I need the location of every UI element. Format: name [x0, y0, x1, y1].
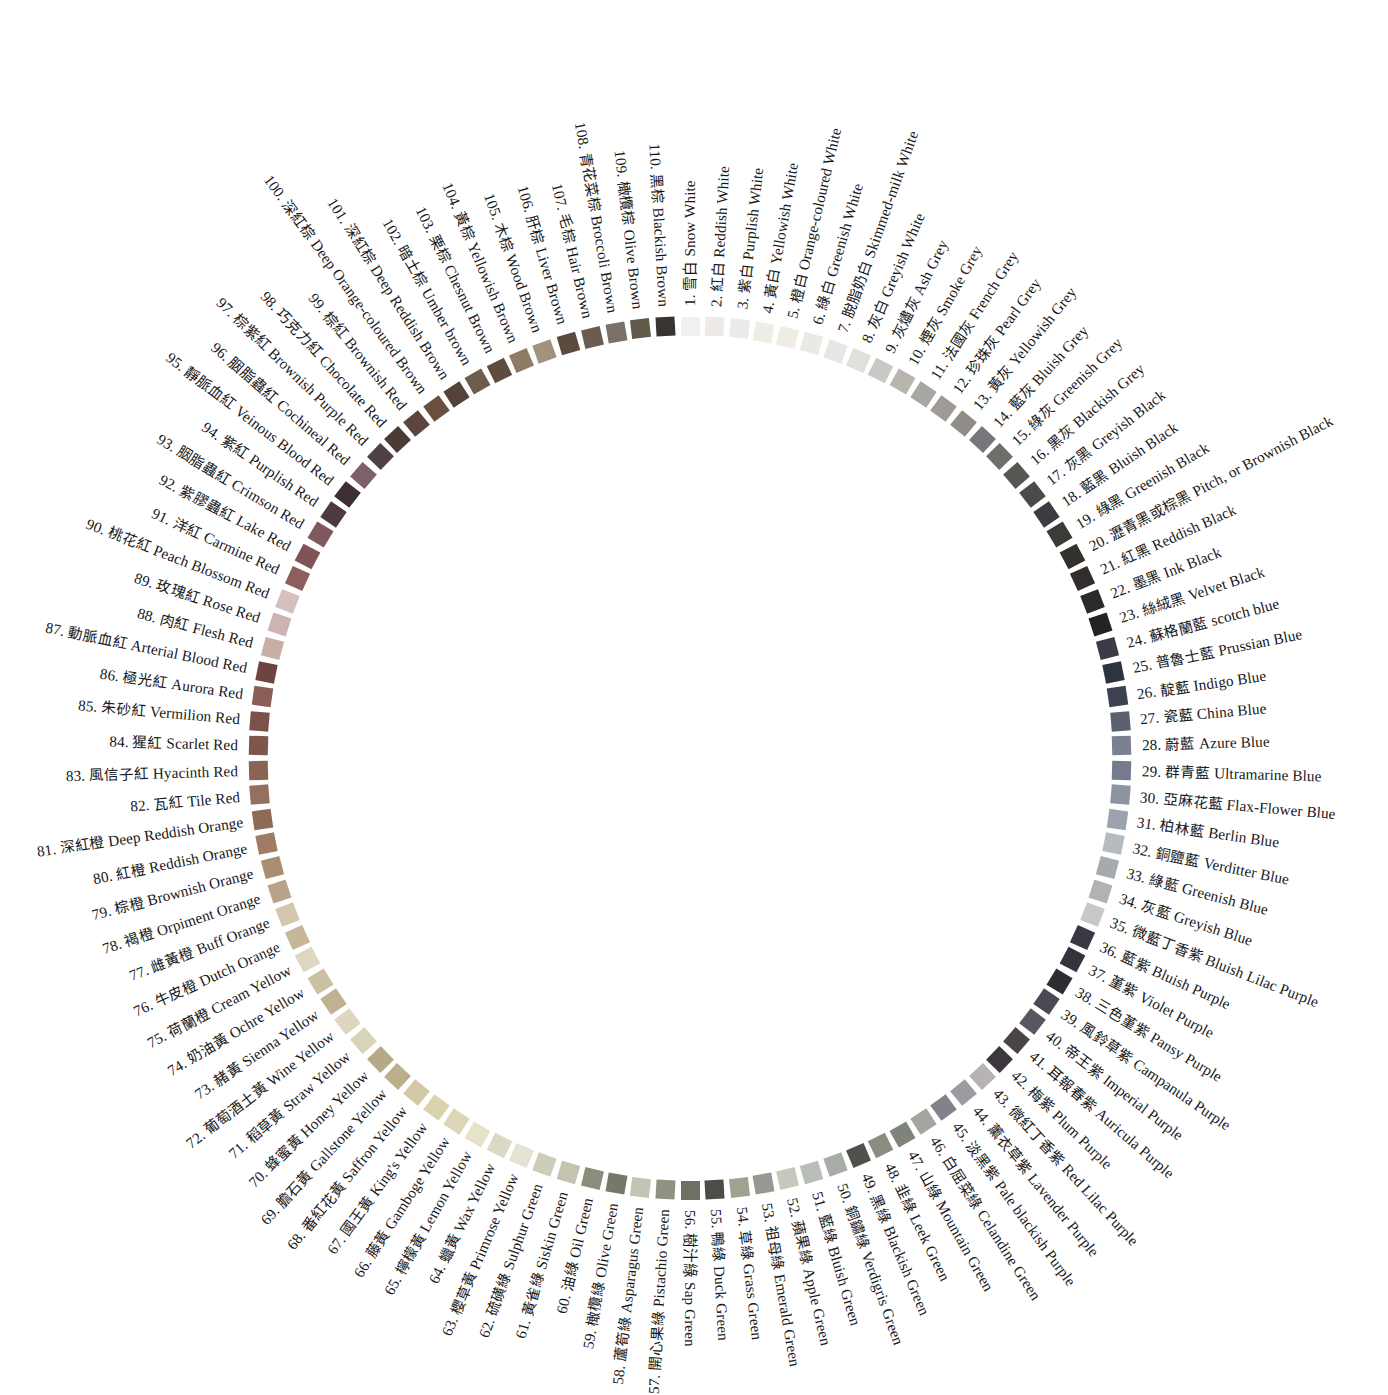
colour-index: 68. [283, 1227, 308, 1253]
colour-index: 36. [1098, 938, 1123, 961]
colour-label: 55. 鴨綠 Duck Green [708, 1209, 731, 1342]
colour-swatch [753, 321, 775, 343]
colour-name-chinese: 紅黑 [1119, 540, 1153, 568]
colour-name-english: Hair Brown [563, 245, 596, 320]
colour-swatch [868, 358, 893, 383]
colour-index: 60. [552, 1293, 573, 1316]
colour-name-chinese: 灰藍 [1139, 896, 1173, 921]
colour-swatch [605, 321, 627, 343]
colour-swatch [335, 481, 362, 508]
colour-index: 5. [784, 304, 803, 319]
colour-name-chinese: 橄欖棕 [616, 180, 638, 227]
colour-swatch [1080, 902, 1105, 927]
colour-index: 18. [1058, 485, 1084, 510]
colour-swatch [252, 809, 274, 831]
colour-name-english: Yellowish White [767, 161, 801, 265]
colour-swatch [889, 369, 915, 395]
colour-swatch [776, 1167, 799, 1190]
colour-name-chinese: 墨黑 [1130, 566, 1164, 593]
colour-index: 49. [858, 1171, 881, 1195]
colour-name-chinese: 玫瑰紅 [155, 576, 203, 606]
colour-swatch [261, 856, 284, 879]
colour-label: 82. 瓦紅 Tile Red [129, 789, 240, 814]
colour-swatch [910, 381, 936, 407]
colour-swatch [705, 317, 725, 337]
colour-swatch [986, 443, 1013, 470]
colour-swatch [307, 522, 333, 548]
colour-swatch [1059, 947, 1085, 973]
colour-swatch [248, 761, 268, 781]
colour-name-chinese: 灰黑 [1061, 443, 1095, 475]
colour-label: 84. 猩紅 Scarlet Red [109, 734, 238, 753]
colour-name-chinese: 蘋果綠 [790, 1219, 817, 1267]
colour-name-english: Olive Brown [621, 228, 647, 309]
colour-name-chinese: 動脈血紅 [67, 623, 129, 652]
colour-index: 62. [475, 1316, 497, 1340]
colour-index: 27. [1140, 709, 1161, 728]
colour-name-chinese: 橄欖綠 [583, 1280, 607, 1327]
colour-name-chinese: 黃白 [761, 266, 783, 298]
colour-swatch [320, 501, 346, 527]
colour-swatch [630, 318, 651, 339]
colour-name-chinese: 黃棕 [451, 208, 478, 242]
colour-name-chinese: 荷蘭橙 [165, 1004, 213, 1040]
colour-index: 85. [77, 697, 98, 716]
colour-swatch [823, 339, 847, 363]
colour-swatch [255, 833, 277, 855]
colour-index: 80. [92, 866, 114, 886]
colour-index: 10. [905, 343, 929, 368]
colour-index: 1. [681, 294, 698, 306]
colour-swatch [350, 462, 377, 489]
colour-name-chinese: 紫白 [735, 263, 755, 295]
colour-index: 53. [759, 1202, 779, 1224]
colour-name-chinese: 朱砂紅 [100, 699, 146, 720]
colour-name-chinese: 棕紅 [320, 308, 352, 342]
colour-index: 22. [1108, 579, 1132, 602]
colour-index: 25. [1131, 656, 1153, 676]
colour-name-chinese: 藤黃 [362, 1227, 393, 1261]
colour-index: 110. [647, 143, 665, 170]
colour-name-english: Aurora Red [170, 675, 244, 702]
colour-swatch [1110, 711, 1131, 732]
colour-name-english: Purplish White [738, 167, 765, 261]
colour-name-english: Broccoli Brown [588, 214, 622, 314]
colour-label: 109. 橄欖棕 Olive Brown [612, 149, 646, 310]
colour-index: 87. [44, 619, 66, 639]
colour-name-chinese: 鴨綠 [709, 1232, 728, 1263]
colour-index: 107. [548, 181, 571, 211]
colour-swatch [1059, 544, 1085, 570]
colour-label: 28. 蔚藍 Azure Blue [1142, 734, 1270, 753]
colour-name-english: Asparagus Green [618, 1206, 647, 1314]
colour-name-chinese: 蠟黃 [435, 1230, 463, 1264]
colour-swatch [267, 880, 291, 904]
colour-name-chinese: 硫磺綠 [483, 1269, 514, 1317]
colour-name-english: Blackish Brown [650, 207, 673, 308]
colour-label: 2. 紅白 Reddish White [708, 165, 732, 307]
colour-name-english: Reddish White [710, 165, 732, 258]
colour-swatch [1102, 833, 1124, 855]
colour-swatch [423, 395, 450, 422]
colour-name-english: Azure Blue [1199, 733, 1270, 752]
colour-swatch [556, 332, 580, 356]
colour-swatch [1112, 736, 1132, 756]
colour-swatch [443, 1108, 469, 1134]
colour-index: 64. [424, 1261, 448, 1286]
colour-swatch [800, 332, 824, 356]
colour-index: 52. [784, 1196, 805, 1219]
colour-swatch [367, 443, 394, 470]
colour-name-english: Flax-Flower Blue [1226, 795, 1336, 821]
colour-swatch [487, 358, 512, 383]
colour-index: 109. [612, 149, 632, 178]
colour-swatch [931, 395, 958, 422]
colour-swatch [969, 1063, 996, 1090]
colour-index: 74. [164, 1055, 189, 1080]
colour-name-chinese: 紫紅 [218, 431, 252, 462]
colour-name-english: China Blue [1196, 700, 1267, 723]
colour-name-chinese: 雌黃橙 [148, 943, 196, 975]
colour-swatch [1019, 481, 1046, 508]
colour-name-chinese: 橙白 [787, 271, 810, 304]
colour-name-chinese: 稻草黃 [243, 1104, 288, 1146]
colour-name-chinese: 風信子紅 [89, 765, 149, 784]
colour-name-chinese: 青花菜棕 [577, 151, 604, 213]
colour-name-chinese: 棕紫紅 [230, 310, 274, 354]
